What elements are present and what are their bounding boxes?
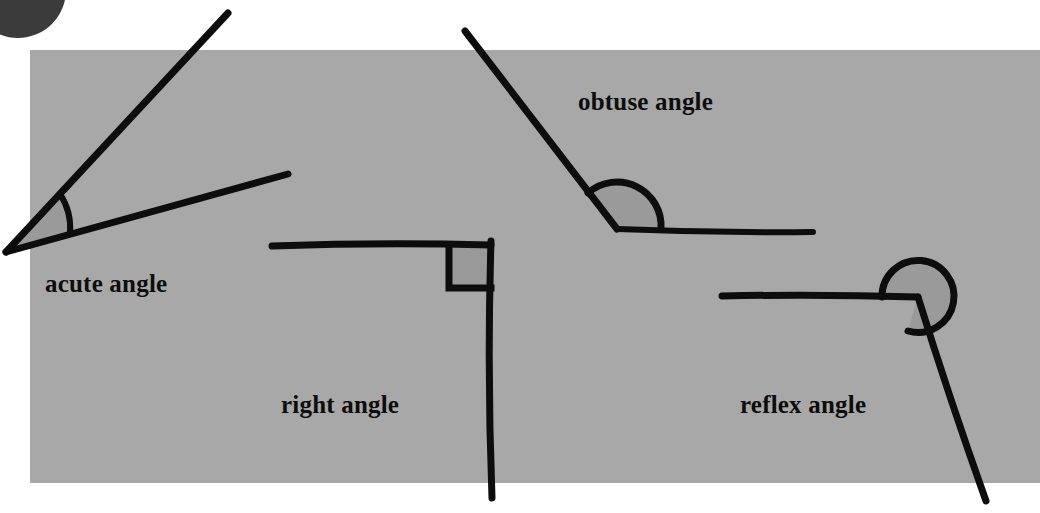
reflex-angle-label: reflex angle — [740, 391, 866, 418]
obtuse-angle-ray-horizontal — [617, 229, 813, 232]
angles-figure: acute angle right angle obtuse angle ref… — [0, 0, 1040, 513]
right-angle-label: right angle — [281, 391, 399, 418]
illustration-panel — [30, 50, 1040, 483]
acute-angle-label: acute angle — [45, 270, 167, 297]
angles-illustration: acute angle right angle obtuse angle ref… — [0, 0, 1040, 513]
right-angle-square-fill — [449, 245, 491, 287]
reflex-angle-ray-horizontal — [722, 295, 918, 297]
right-angle-ray-horizontal — [272, 244, 491, 246]
right-angle-ray-vertical — [489, 241, 492, 498]
obtuse-angle-label: obtuse angle — [578, 88, 713, 115]
